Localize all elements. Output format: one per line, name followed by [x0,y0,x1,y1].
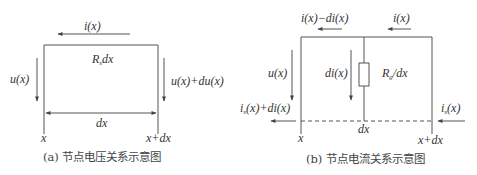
shunt-resistor [359,63,369,86]
label-current-top-left: i(x)−di(x) [301,11,348,26]
label-shunt-resistance: Rg/dx [382,66,408,81]
label-span: dx [358,122,369,137]
label-branch-current: di(x) [325,66,348,81]
panel-b-graphics [271,29,465,134]
label-series-resistance: Rsdx [92,52,113,67]
label-pos-left: x [41,131,46,146]
label-pos-right: x+dx [146,131,171,146]
label-ground-current-left: is(x)+di(x) [240,101,290,116]
label-voltage-left: u(x) [268,66,287,81]
label-current-top: i(x) [84,19,101,34]
caption-a: (a) 节点电压关系示意图 [43,148,162,164]
label-current-top-right: i(x) [393,11,410,26]
label-span: dx [96,116,107,131]
label-ground-current-right: is(x) [441,101,460,116]
label-pos-right: x+dx [418,133,443,148]
label-voltage-right: u(x)+du(x) [171,74,224,89]
label-voltage-left: u(x) [10,72,29,87]
caption-b: (b) 节点电流关系示意图 [306,150,425,166]
label-pos-left: x [298,131,303,146]
